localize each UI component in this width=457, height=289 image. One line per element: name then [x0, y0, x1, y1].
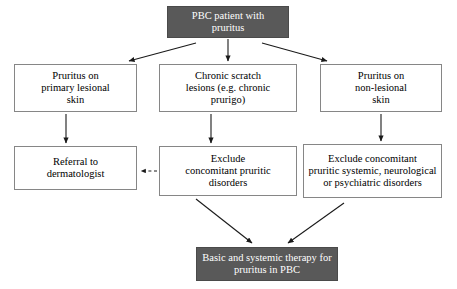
edge-root-to-nonlesional [262, 43, 327, 61]
edge-root-to-lesional [129, 43, 196, 61]
node-chronic-scratch-lesions[interactable]: Chronic scratch lesions (e.g. chronic pr… [159, 64, 297, 112]
node-pbc-patient[interactable]: PBC patient with pruritus [167, 6, 289, 38]
node-exclude-pruritic-disorders-label: Exclude concomitant pruritic disorders [182, 153, 273, 188]
node-exclude-systemic-disorders-label: Exclude concomitant pruritic systemic, n… [305, 153, 439, 188]
node-exclude-pruritic-disorders[interactable]: Exclude concomitant pruritic disorders [159, 146, 297, 196]
edge-exclude-to-therapy [196, 199, 252, 243]
node-exclude-systemic-disorders[interactable]: Exclude concomitant pruritic systemic, n… [303, 144, 442, 198]
node-basic-systemic-therapy-label: Basic and systemic therapy for pruritus … [199, 252, 334, 276]
node-referral-dermatologist-label: Referral to dermatologist [44, 156, 108, 180]
node-pruritus-lesional-skin-label: Pruritus on primary lesional skin [38, 70, 113, 105]
node-pbc-patient-label: PBC patient with pruritus [189, 10, 267, 34]
node-pruritus-lesional-skin[interactable]: Pruritus on primary lesional skin [14, 64, 137, 112]
node-pruritus-nonlesional-skin-label: Pruritus on non-lesional skin [352, 70, 410, 105]
node-pruritus-nonlesional-skin[interactable]: Pruritus on non-lesional skin [320, 64, 442, 112]
node-referral-dermatologist[interactable]: Referral to dermatologist [14, 146, 137, 190]
edge-systemic-to-therapy [288, 203, 344, 243]
node-basic-systemic-therapy[interactable]: Basic and systemic therapy for pruritus … [196, 247, 338, 281]
node-chronic-scratch-lesions-label: Chronic scratch lesions (e.g. chronic pr… [183, 70, 274, 105]
flowchart-canvas: PBC patient with pruritus Pruritus on pr… [0, 0, 457, 289]
